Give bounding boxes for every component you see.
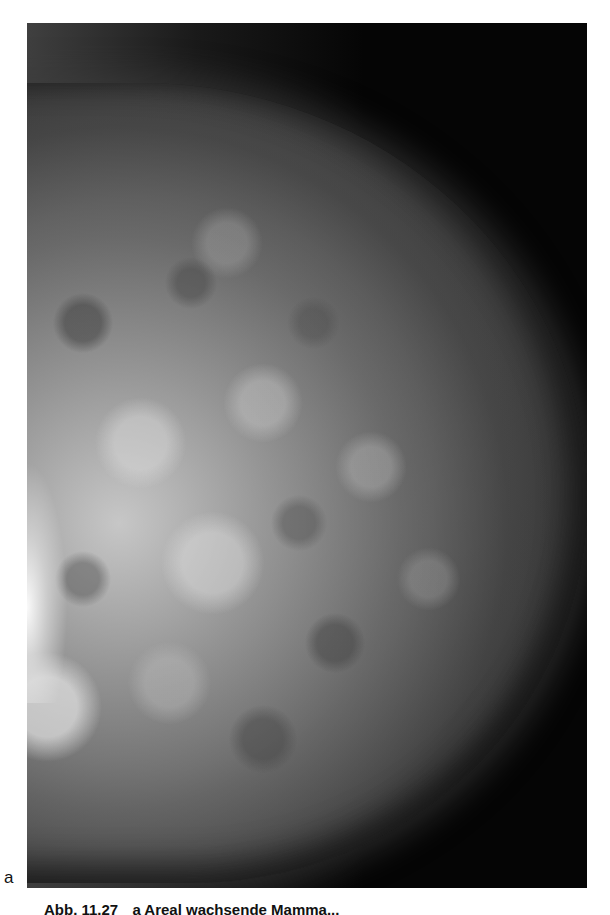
mammogram-image	[27, 23, 587, 888]
figure-number: Abb. 11.27	[44, 901, 118, 915]
dense-tissue-area	[27, 463, 67, 703]
caption-text: a Areal wachsende Mamma...	[132, 901, 339, 915]
panel-label: a	[4, 869, 13, 886]
figure-caption: Abb. 11.27 a Areal wachsende Mamma...	[44, 902, 339, 915]
